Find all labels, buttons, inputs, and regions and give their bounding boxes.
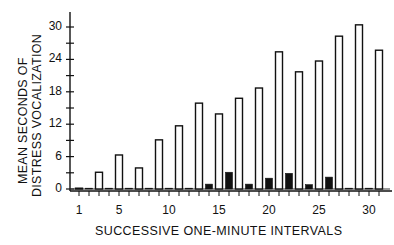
- y-tick-label: 0: [40, 181, 62, 195]
- filled-bar: [146, 188, 153, 189]
- open-bar: [236, 98, 243, 189]
- filled-bar: [326, 177, 333, 189]
- x-tick-label: 25: [312, 203, 325, 217]
- open-bar: [156, 140, 163, 189]
- filled-bar: [366, 188, 373, 189]
- open-bar: [216, 114, 223, 189]
- x-tick-label: 1: [76, 203, 83, 217]
- open-bar: [356, 25, 363, 189]
- filled-bar: [346, 188, 353, 189]
- filled-bar: [246, 184, 253, 189]
- x-tick-label: 10: [162, 203, 175, 217]
- x-tick-label: 30: [362, 203, 375, 217]
- filled-bar: [126, 188, 133, 189]
- open-bar: [96, 172, 103, 189]
- open-bar: [276, 52, 283, 189]
- y-tick-label: 18: [40, 84, 62, 98]
- open-bar: [256, 88, 263, 189]
- x-tick-label: 20: [262, 203, 275, 217]
- y-tick-label: 24: [40, 51, 62, 65]
- y-tick-label: 6: [40, 149, 62, 163]
- x-axis-title: SUCCESSIVE ONE-MINUTE INTERVALS: [95, 224, 342, 238]
- y-tick-label: 12: [40, 116, 62, 130]
- open-bar: [296, 72, 303, 189]
- open-bar: [176, 126, 183, 189]
- filled-bar: [306, 185, 313, 189]
- filled-bar: [86, 188, 93, 189]
- open-bar: [116, 155, 123, 189]
- open-bar: [336, 36, 343, 189]
- filled-bar: [266, 178, 273, 189]
- filled-bar: [186, 188, 193, 189]
- filled-bar: [206, 184, 213, 189]
- filled-bar: [106, 188, 113, 189]
- open-bar: [316, 61, 323, 189]
- open-bar: [136, 168, 143, 189]
- bar-chart: MEAN SECONDS OF DISTRESS VOCALIZATION 06…: [0, 0, 394, 245]
- open-bar: [376, 50, 383, 189]
- x-tick-label: 15: [212, 203, 225, 217]
- x-tick-label: 5: [116, 203, 123, 217]
- filled-bar: [286, 173, 293, 189]
- filled-bar: [166, 188, 173, 189]
- y-tick-label: 30: [40, 19, 62, 33]
- open-bar: [196, 103, 203, 189]
- open-bar: [76, 188, 83, 189]
- filled-bar: [226, 172, 233, 189]
